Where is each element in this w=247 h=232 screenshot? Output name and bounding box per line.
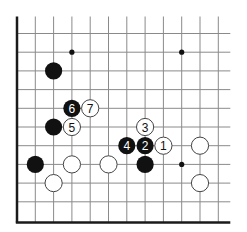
black-stone-icon <box>45 62 62 79</box>
black-stone-icon <box>45 118 62 135</box>
black-stone-move-4: 4 <box>118 137 135 154</box>
black-stone <box>45 118 62 135</box>
white-stone-icon <box>191 175 208 192</box>
white-stone-move-1: 1 <box>155 137 172 154</box>
white-stone <box>191 175 208 192</box>
white-stone <box>45 175 62 192</box>
white-stone-icon <box>100 156 117 173</box>
white-stone-icon <box>191 137 208 154</box>
white-stone <box>100 156 117 173</box>
move-number: 5 <box>69 121 76 135</box>
move-number: 3 <box>142 121 149 135</box>
white-stone-move-5: 5 <box>63 118 80 135</box>
go-board: 6753421 <box>0 0 247 232</box>
move-number: 4 <box>123 139 130 153</box>
move-number: 1 <box>160 139 167 153</box>
black-stone-move-6: 6 <box>63 100 80 117</box>
white-stone <box>191 137 208 154</box>
star-point-icon <box>69 50 74 55</box>
star-point-icon <box>179 50 184 55</box>
star-point-icon <box>179 162 184 167</box>
black-stone-icon <box>27 156 44 173</box>
white-stone-icon <box>45 175 62 192</box>
white-stone-move-7: 7 <box>82 100 99 117</box>
black-stone-move-2: 2 <box>137 137 154 154</box>
white-stone <box>63 156 80 173</box>
white-stone-icon <box>63 156 80 173</box>
black-stone <box>27 156 44 173</box>
move-number: 6 <box>69 102 76 116</box>
move-number: 7 <box>87 102 94 116</box>
move-number: 2 <box>142 139 149 153</box>
white-stone-move-3: 3 <box>137 118 154 135</box>
black-stone <box>137 156 154 173</box>
black-stone <box>45 62 62 79</box>
black-stone-icon <box>137 156 154 173</box>
